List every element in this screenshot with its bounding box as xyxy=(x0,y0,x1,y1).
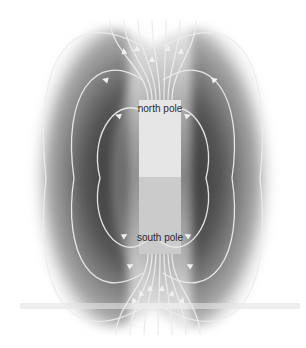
field-svg xyxy=(0,0,306,348)
magnet-field-diagram: north pole south pole xyxy=(0,0,306,348)
north-pole-label: north pole xyxy=(133,102,187,115)
south-pole-label: south pole xyxy=(133,231,187,244)
